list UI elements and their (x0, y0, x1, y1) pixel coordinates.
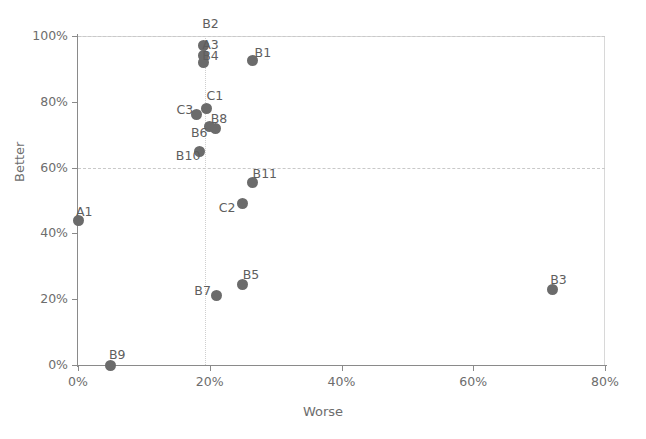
data-point-label: C3 (177, 102, 194, 117)
data-point-label: B7 (194, 283, 211, 298)
data-point-label: B9 (109, 347, 126, 362)
x-axis-title: Worse (0, 404, 646, 419)
x-tick (473, 365, 474, 371)
x-tick (605, 365, 606, 371)
x-tick-label: 40% (312, 374, 372, 389)
data-point-label: B2 (202, 16, 219, 31)
gridline-horizontal (78, 36, 605, 37)
data-point-label: A1 (76, 204, 93, 219)
x-tick-label: 0% (48, 374, 108, 389)
y-tick (72, 168, 78, 169)
data-point-label: B10 (176, 148, 200, 163)
x-tick (210, 365, 211, 371)
x-tick-label: 60% (443, 374, 503, 389)
data-point-label: B4 (202, 48, 219, 63)
data-point-label: B1 (255, 45, 272, 60)
scatter-chart: 0%20%40%60%80%100% 0%20%40%60%80% B2A3B4… (0, 0, 646, 439)
y-axis-line (77, 34, 78, 367)
y-tick (72, 233, 78, 234)
data-point-label: B5 (243, 267, 260, 282)
data-point-label: C2 (219, 200, 236, 215)
y-tick-label: 100% (10, 28, 68, 43)
y-tick-label: 40% (10, 225, 68, 240)
y-tick-label: 80% (10, 94, 68, 109)
x-tick-label: 80% (575, 374, 635, 389)
x-tick (78, 365, 79, 371)
data-point-label: B6 (191, 125, 208, 140)
data-point (210, 123, 221, 134)
plot-area (78, 36, 605, 365)
y-axis-title: Better (12, 142, 27, 182)
y-tick (72, 36, 78, 37)
y-tick-label: 20% (10, 291, 68, 306)
data-point-label: C1 (206, 88, 223, 103)
x-tick-label: 20% (180, 374, 240, 389)
x-tick (342, 365, 343, 371)
gridline-vertical (205, 36, 206, 365)
y-tick (72, 102, 78, 103)
y-tick-label: 0% (10, 357, 68, 372)
data-point-label: B3 (550, 272, 567, 287)
data-point-label: B11 (253, 166, 277, 181)
gridline-horizontal (78, 168, 605, 169)
y-tick (72, 299, 78, 300)
